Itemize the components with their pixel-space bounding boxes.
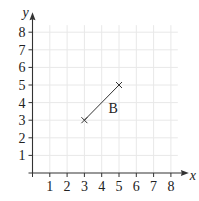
coordinate-plane: 1234567812345678 B x y: [0, 0, 199, 201]
x-axis-label: x: [189, 168, 197, 183]
y-tick-label: 1: [19, 148, 26, 163]
y-tick-label: 3: [19, 113, 26, 128]
tick-labels: 1234567812345678: [19, 25, 175, 194]
segment-label: B: [109, 101, 118, 116]
y-axis-arrow-icon: [30, 12, 36, 20]
x-tick-label: 4: [98, 179, 105, 194]
x-tick-label: 1: [46, 179, 53, 194]
axes: [29, 12, 189, 177]
y-tick-label: 7: [19, 43, 26, 58]
x-tick-label: 6: [133, 179, 140, 194]
y-tick-label: 2: [19, 131, 26, 146]
x-tick-label: 2: [64, 179, 71, 194]
x-tick-label: 8: [167, 179, 174, 194]
x-tick-label: 5: [116, 179, 123, 194]
x-tick-label: 7: [150, 179, 157, 194]
y-tick-label: 4: [19, 96, 26, 111]
y-tick-label: 5: [19, 78, 26, 93]
y-axis-label: y: [21, 5, 30, 20]
x-axis-arrow-icon: [181, 170, 189, 176]
y-tick-label: 6: [19, 60, 26, 75]
x-tick-label: 3: [81, 179, 88, 194]
y-tick-label: 8: [19, 25, 26, 40]
